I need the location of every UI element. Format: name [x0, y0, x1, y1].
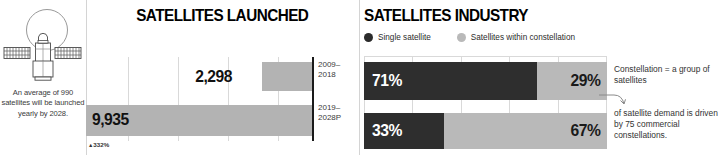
- industry-legend: Single satellite Satellites within const…: [364, 33, 575, 42]
- period-line-2: 2028P: [318, 113, 341, 123]
- plot-top-rule: [364, 56, 607, 57]
- satellites-industry-panel: SATELLITES INDUSTRY Single satellite Sat…: [362, 0, 720, 155]
- industry-plot: 71% 29% 33% 67%: [364, 56, 607, 148]
- period-label-2019-2028p: 2019– 2028P: [318, 103, 341, 122]
- satellite-info-panel: An average of 990 satellites will be lau…: [0, 0, 86, 155]
- bar-value-2009-2018: 2,298: [195, 67, 232, 87]
- legend-dot-icon: [364, 33, 373, 42]
- satellite-caption: An average of 990 satellites will be lau…: [0, 88, 86, 119]
- period-label-2009-2018: 2009– 2018: [318, 60, 340, 79]
- period-line-1: 2009–: [318, 60, 340, 70]
- infographic-root: An average of 990 satellites will be lau…: [0, 0, 720, 155]
- note-constellation-definition: Constellation = a group of satellites: [614, 64, 718, 86]
- segment-value: 33%: [372, 121, 402, 141]
- satellites-industry-title: SATELLITES INDUSTRY: [364, 6, 528, 25]
- legend-item-single-satellite: Single satellite: [364, 33, 431, 42]
- legend-dot-icon: [457, 33, 466, 42]
- value-axis: [312, 57, 314, 141]
- legend-item-constellation: Satellites within constellation: [457, 33, 575, 42]
- stacked-bar-row-2: 33% 67%: [364, 113, 607, 149]
- growth-value: 332%: [93, 141, 109, 148]
- period-line-2: 2018: [318, 70, 340, 80]
- segment-constellation: 67%: [444, 113, 607, 149]
- segment-value: 67%: [571, 121, 601, 141]
- segment-constellation: 29%: [537, 62, 607, 100]
- segment-value: 29%: [571, 71, 601, 91]
- note-satellite-demand: of satellite demand is driven by 75 comm…: [614, 108, 720, 141]
- legend-label: Single satellite: [378, 33, 431, 42]
- satellite-icon: [2, 2, 86, 86]
- segment-single-satellite: 33%: [364, 113, 444, 149]
- segment-single-satellite: 71%: [364, 62, 537, 100]
- divider-right: [359, 0, 360, 155]
- satellites-launched-title: SATELLITES LAUNCHED: [136, 6, 308, 25]
- segment-value: 71%: [372, 71, 402, 91]
- satellites-launched-panel: SATELLITES LAUNCHED 2,298 9,935 2009– 20…: [86, 0, 354, 155]
- growth-annotation: ▲332%: [88, 141, 109, 148]
- bar-value-2019-2028p: 9,935: [92, 110, 129, 130]
- legend-label: Satellites within constellation: [471, 33, 575, 42]
- satellites-launched-plot: 2,298 9,935: [86, 57, 314, 141]
- period-line-1: 2019–: [318, 103, 341, 113]
- bar-2009-2018: [262, 62, 312, 91]
- stacked-bar-row-1: 71% 29%: [364, 62, 607, 100]
